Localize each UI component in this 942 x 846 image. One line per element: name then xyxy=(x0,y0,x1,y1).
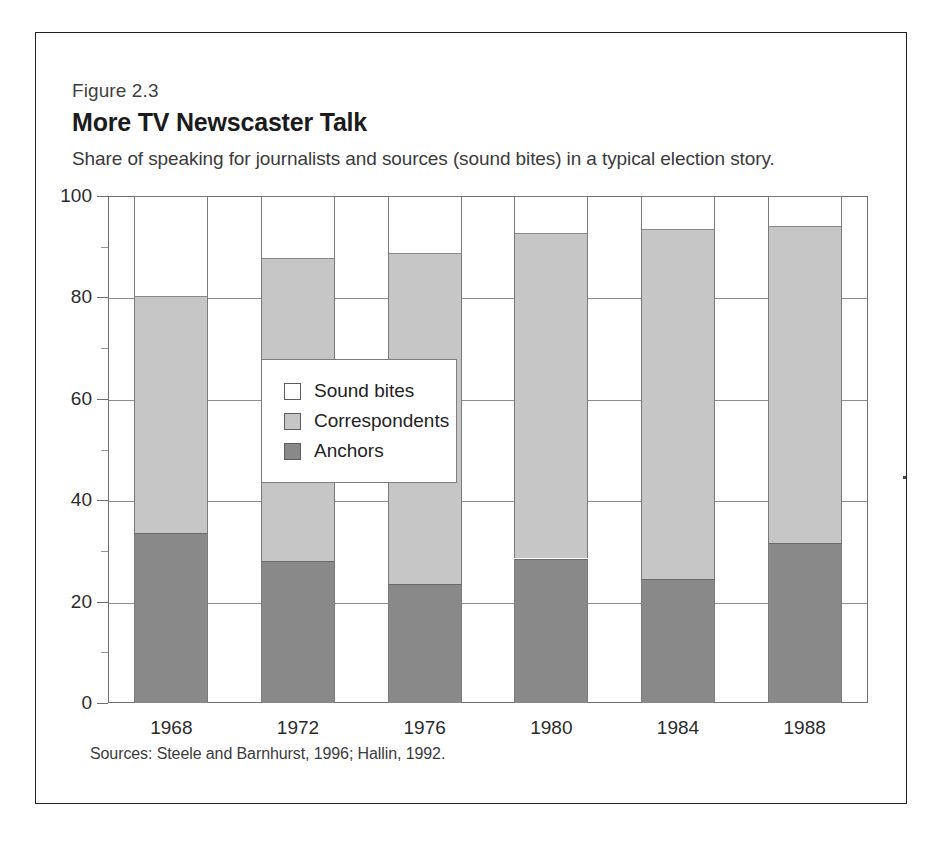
legend-label-correspondents: Correspondents xyxy=(314,410,449,432)
y-tick-100 xyxy=(97,196,108,197)
y-minor-tick-10 xyxy=(101,652,108,653)
figure-title: More TV Newscaster Talk xyxy=(72,108,367,137)
bar-segment-1988-sound-bites xyxy=(768,196,842,226)
legend-item-anchors: Anchors xyxy=(284,436,456,466)
legend-swatch-correspondents xyxy=(284,413,301,430)
legend-item-sound-bites: Sound bites xyxy=(284,376,456,406)
bar-segment-1976-anchors xyxy=(388,584,462,703)
bar-1988 xyxy=(768,196,842,703)
y-tick-20 xyxy=(97,602,108,603)
gridline-y-40 xyxy=(109,501,867,502)
x-tick-label-1988: 1988 xyxy=(784,717,826,739)
x-tick-label-1984: 1984 xyxy=(657,717,699,739)
gridline-y-60 xyxy=(109,400,867,401)
x-tick-label-1976: 1976 xyxy=(404,717,446,739)
bar-segment-1972-anchors xyxy=(261,561,335,703)
bar-segment-1984-sound-bites xyxy=(641,196,715,229)
y-tick-label-20: 20 xyxy=(71,591,92,613)
y-tick-60 xyxy=(97,399,108,400)
legend-label-sound-bites: Sound bites xyxy=(314,380,414,402)
y-tick-label-0: 0 xyxy=(81,692,92,714)
legend-label-anchors: Anchors xyxy=(314,440,384,462)
gridline-y-80 xyxy=(109,298,867,299)
chart-legend: Sound bites Correspondents Anchors xyxy=(261,359,457,483)
y-tick-40 xyxy=(97,500,108,501)
y-minor-tick-90 xyxy=(101,247,108,248)
bar-segment-1984-correspondents xyxy=(641,229,715,579)
bar-1984 xyxy=(641,196,715,703)
figure-subtitle: Share of speaking for journalists and so… xyxy=(72,148,775,170)
y-tick-0 xyxy=(97,703,108,704)
x-tick-label-1972: 1972 xyxy=(277,717,319,739)
chart-plot-area: 020406080100196819721976198019841988 xyxy=(108,196,868,703)
y-minor-tick-70 xyxy=(101,348,108,349)
y-minor-tick-50 xyxy=(101,450,108,451)
legend-swatch-anchors xyxy=(284,443,301,460)
y-tick-label-40: 40 xyxy=(71,489,92,511)
y-minor-tick-30 xyxy=(101,551,108,552)
x-tick-label-1968: 1968 xyxy=(150,717,192,739)
bar-segment-1988-anchors xyxy=(768,543,842,703)
figure-screenshot: Figure 2.3 More TV Newscaster Talk Share… xyxy=(0,0,942,846)
bar-segment-1980-sound-bites xyxy=(514,196,588,233)
source-note: Sources: Steele and Barnhurst, 1996; Hal… xyxy=(90,745,445,763)
chart-axes xyxy=(108,196,868,703)
bar-segment-1968-correspondents xyxy=(134,296,208,533)
bar-segment-1980-correspondents xyxy=(514,233,588,558)
page-mark xyxy=(903,476,906,479)
y-tick-label-80: 80 xyxy=(71,286,92,308)
bar-segment-1988-correspondents xyxy=(768,226,842,543)
bar-1980 xyxy=(514,196,588,703)
bar-segment-1972-sound-bites xyxy=(261,196,335,258)
legend-item-correspondents: Correspondents xyxy=(284,406,456,436)
bar-segment-1968-anchors xyxy=(134,533,208,703)
y-tick-label-60: 60 xyxy=(71,388,92,410)
legend-swatch-sound-bites xyxy=(284,383,301,400)
figure-number: Figure 2.3 xyxy=(72,80,159,102)
x-tick-label-1980: 1980 xyxy=(530,717,572,739)
bar-segment-1976-sound-bites xyxy=(388,196,462,253)
gridline-y-20 xyxy=(109,603,867,604)
bar-segment-1968-sound-bites xyxy=(134,196,208,296)
bar-segment-1984-anchors xyxy=(641,579,715,703)
y-tick-label-100: 100 xyxy=(60,185,92,207)
bar-segment-1980-anchors xyxy=(514,559,588,703)
bar-1968 xyxy=(134,196,208,703)
y-tick-80 xyxy=(97,297,108,298)
